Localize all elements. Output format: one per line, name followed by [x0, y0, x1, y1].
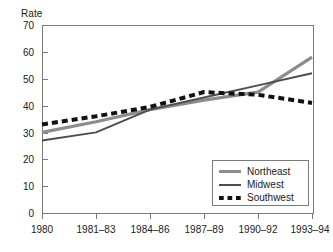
series-line-northeast: [42, 57, 312, 132]
y-axis-ticks: [42, 52, 48, 186]
plot-area: [0, 0, 333, 252]
thick-gray-line-icon: [219, 167, 241, 177]
legend-item-southwest: Southwest: [219, 191, 308, 204]
legend-label-northeast: Northeast: [247, 166, 290, 177]
legend-item-northeast: Northeast: [219, 165, 308, 178]
legend-item-midwest: Midwest: [219, 178, 308, 191]
series-group: [42, 57, 312, 140]
series-line-southwest: [42, 92, 312, 124]
dotted-black-line-icon: [219, 193, 241, 203]
line-chart: Rate 70 60 50 40 30 20 10 0 1980 1981–83…: [0, 0, 333, 252]
x-axis-ticks: [42, 213, 312, 219]
legend-label-southwest: Southwest: [247, 192, 294, 203]
legend: Northeast Midwest Southwest: [212, 160, 309, 206]
legend-label-midwest: Midwest: [247, 179, 284, 190]
thin-dark-line-icon: [219, 180, 241, 190]
